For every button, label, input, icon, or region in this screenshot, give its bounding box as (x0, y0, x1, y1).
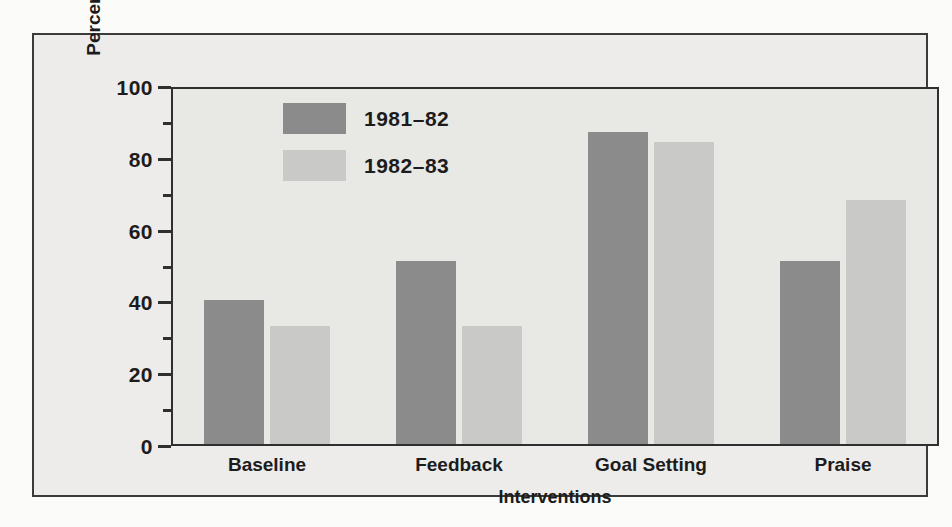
bar (204, 300, 264, 444)
y-tick-label: 40 (129, 292, 153, 313)
figure-outer-frame: Percentage of Games Won 020406080100 Bas… (32, 33, 928, 497)
y-tick-major (158, 86, 171, 89)
x-tick-label: Goal Setting (595, 455, 707, 474)
y-tick-minor (163, 194, 171, 197)
y-tick-minor (163, 122, 171, 125)
bar (396, 261, 456, 444)
legend-label: 1982–83 (364, 152, 449, 179)
bar (270, 326, 330, 444)
y-tick-major (158, 445, 171, 448)
y-tick-label: 80 (129, 148, 153, 169)
y-tick-minor (163, 409, 171, 412)
bar (780, 261, 840, 444)
y-tick-label: 100 (116, 77, 153, 98)
bars-layer (173, 89, 937, 444)
y-tick-major (158, 230, 171, 233)
y-tick-major (158, 373, 171, 376)
x-tick-label: Baseline (228, 455, 306, 474)
y-tick-minor (163, 266, 171, 269)
y-axis: 020406080100 (34, 35, 171, 448)
bar (846, 200, 906, 444)
bar (654, 142, 714, 444)
plot-area (171, 87, 939, 446)
figure-canvas: Percentage of Games Won 020406080100 Bas… (0, 0, 952, 527)
x-tick-label: Praise (814, 455, 871, 474)
legend-swatch (283, 150, 346, 181)
y-tick-label: 60 (129, 220, 153, 241)
bar (462, 326, 522, 444)
y-tick-major (158, 158, 171, 161)
x-tick-label: Feedback (415, 455, 503, 474)
legend-swatch (283, 103, 346, 134)
y-tick-minor (163, 337, 171, 340)
y-tick-label: 0 (141, 436, 153, 457)
y-tick-label: 20 (129, 364, 153, 385)
bar (588, 132, 648, 444)
y-tick-major (158, 301, 171, 304)
legend-label: 1981–82 (364, 105, 449, 132)
x-axis-title: Interventions (171, 487, 939, 508)
